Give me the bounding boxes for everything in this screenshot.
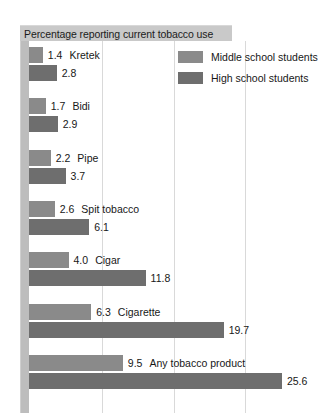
bar-value: 4.0 [74, 254, 89, 266]
legend-label-middle-school: Middle school students [211, 51, 318, 63]
bar-row: 2.6Spit tobacco [29, 201, 330, 217]
category-label: Any tobacco product [149, 357, 245, 369]
bar-kretek-high-school [29, 65, 57, 81]
category-label: Bidi [72, 100, 90, 112]
bar-pipe-high-school [29, 168, 66, 184]
bar-cigar-middle-school [29, 252, 69, 268]
tobacco-use-bar-chart: Percentage reporting current tobacco use… [0, 0, 330, 413]
bar-row: 9.5Any tobacco product [29, 355, 330, 371]
bar-row: 2.2Pipe [29, 150, 330, 166]
bar-row: 11.8 [29, 270, 330, 286]
bar-row: 2.9 [29, 116, 330, 132]
bar-bidi-middle-school [29, 98, 46, 114]
bar-row: 6.3Cigarette [29, 304, 330, 320]
bar-value: 2.8 [62, 67, 77, 79]
bar-value-label: 2.8 [57, 67, 77, 79]
bar-cigarette-middle-school [29, 304, 91, 320]
bar-value: 2.9 [63, 118, 78, 130]
category-label: Cigar [95, 254, 120, 266]
bar-value: 2.6 [60, 203, 75, 215]
bar-value: 3.7 [71, 170, 86, 182]
plot-area: 1.4Kretek2.81.7Bidi2.92.2Pipe3.72.6Spit … [29, 41, 330, 413]
bar-spit-tobacco-middle-school [29, 201, 55, 217]
chart-title-bar: Percentage reporting current tobacco use [20, 25, 232, 42]
bar-value-label: 9.5Any tobacco product [123, 357, 245, 369]
bar-value: 1.7 [51, 100, 66, 112]
category-label: Pipe [77, 152, 98, 164]
bar-value: 9.5 [128, 357, 143, 369]
bar-kretek-middle-school [29, 47, 43, 63]
bar-cigarette-high-school [29, 322, 224, 338]
category-label: Spit tobacco [81, 203, 139, 215]
bar-value-label: 19.7 [224, 324, 249, 336]
bar-value-label: 6.1 [89, 221, 109, 233]
bar-value: 11.8 [151, 272, 171, 284]
bar-value-label: 6.3Cigarette [91, 306, 160, 318]
bar-bidi-high-school [29, 116, 58, 132]
category-label: Cigarette [118, 306, 161, 318]
chart-legend: Middle school students High school stude… [178, 50, 328, 92]
legend-label-high-school: High school students [211, 72, 308, 84]
bar-value-label: 4.0Cigar [69, 254, 121, 266]
bar-value-label: 3.7 [66, 170, 86, 182]
bar-value: 6.1 [94, 221, 109, 233]
legend-swatch-middle-school-icon [178, 51, 203, 63]
legend-item-middle-school: Middle school students [178, 50, 328, 63]
bar-value: 19.7 [229, 324, 249, 336]
bar-row: 19.7 [29, 322, 330, 338]
bar-any-tobacco-product-high-school [29, 373, 282, 389]
bar-value-label: 25.6 [282, 375, 307, 387]
bar-row: 25.6 [29, 373, 330, 389]
bar-value-label: 2.2Pipe [51, 152, 99, 164]
bar-cigar-high-school [29, 270, 146, 286]
bar-value: 6.3 [96, 306, 111, 318]
bar-value-label: 1.4Kretek [43, 49, 100, 61]
bar-value: 2.2 [56, 152, 71, 164]
bar-spit-tobacco-high-school [29, 219, 89, 235]
bar-value-label: 2.6Spit tobacco [55, 203, 139, 215]
bar-value-label: 2.9 [58, 118, 78, 130]
bar-value-label: 11.8 [146, 272, 171, 284]
bar-row: 6.1 [29, 219, 330, 235]
bar-row: 3.7 [29, 168, 330, 184]
bar-value: 25.6 [287, 375, 307, 387]
bar-any-tobacco-product-middle-school [29, 355, 123, 371]
bar-value: 1.4 [48, 49, 63, 61]
bar-row: 1.7Bidi [29, 98, 330, 114]
chart-title: Percentage reporting current tobacco use [20, 28, 213, 40]
legend-item-high-school: High school students [178, 71, 328, 84]
bar-pipe-middle-school [29, 150, 51, 166]
category-label: Kretek [69, 49, 99, 61]
bar-value-label: 1.7Bidi [46, 100, 90, 112]
legend-swatch-high-school-icon [178, 72, 203, 84]
bar-row: 4.0Cigar [29, 252, 330, 268]
